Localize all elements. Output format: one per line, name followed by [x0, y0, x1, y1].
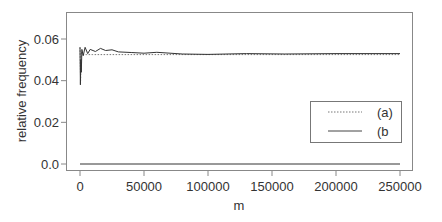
- y-tick-label: 0.02: [34, 115, 59, 130]
- relative-frequency-chart: 050000100000150000200000250000 0.00.020.…: [0, 0, 442, 222]
- x-tick-label: 0: [76, 179, 83, 194]
- legend-label: (b: [377, 124, 389, 139]
- x-tick-label: 50000: [126, 179, 162, 194]
- y-tick-label: 0.04: [34, 73, 59, 88]
- x-axis: 050000100000150000200000250000: [76, 171, 421, 195]
- x-axis-title: m: [234, 198, 245, 213]
- y-tick-label: 0.06: [34, 32, 59, 47]
- y-tick-label: 0.0: [41, 157, 59, 172]
- plot-frame: [67, 13, 413, 171]
- legend: (a)(b: [311, 102, 402, 143]
- x-tick-label: 200000: [314, 179, 357, 194]
- series-line: [80, 47, 400, 85]
- x-tick-label: 250000: [378, 179, 421, 194]
- x-tick-label: 100000: [186, 179, 229, 194]
- y-axis-title: relative frequency: [14, 39, 29, 142]
- legend-label: (a): [377, 105, 393, 120]
- y-axis: 0.00.020.040.06: [34, 32, 67, 172]
- x-tick-label: 150000: [250, 179, 293, 194]
